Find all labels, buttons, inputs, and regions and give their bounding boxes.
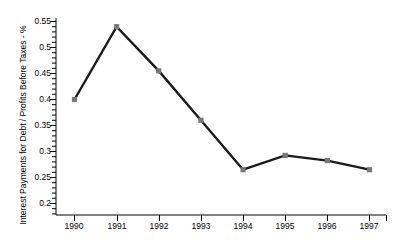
x-axis-tick-labels: 1990 1991 1992 1993 1994 1995 1996 1997: [0, 221, 403, 237]
data-point-1993: [198, 118, 203, 123]
data-point-1995: [283, 153, 288, 158]
data-series-line: [75, 27, 370, 170]
y-minor-ticks: [52, 27, 56, 214]
x-tick-label: 1992: [139, 221, 179, 231]
data-point-1997: [367, 167, 372, 172]
x-tick-label: 1995: [265, 221, 305, 231]
data-point-1992: [156, 68, 161, 73]
x-tick-label: 1991: [97, 221, 137, 231]
x-tick-label: 1990: [54, 221, 94, 231]
data-point-1991: [114, 24, 119, 29]
x-tick-label: 1993: [181, 221, 221, 231]
data-point-1994: [240, 167, 245, 172]
x-tick-label: 1994: [223, 221, 263, 231]
x-tick-label: 1996: [307, 221, 347, 231]
y-major-ticks: [50, 22, 56, 204]
plot-area: [0, 0, 403, 250]
data-point-markers: [72, 24, 372, 172]
data-point-1990: [72, 97, 77, 102]
line-chart: Interest Payments for Debt / Profits Bef…: [0, 0, 403, 250]
x-tick-label: 1997: [349, 221, 389, 231]
data-point-1996: [325, 158, 330, 163]
